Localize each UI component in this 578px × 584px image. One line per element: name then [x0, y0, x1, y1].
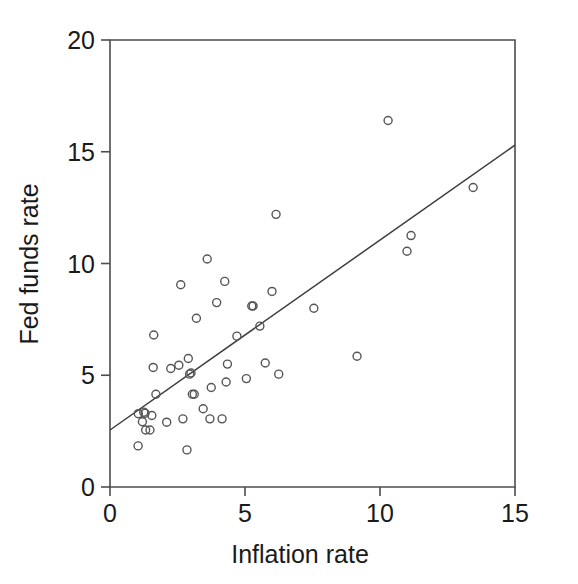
- scatter-point: [134, 442, 142, 450]
- y-tick-label-0: 0: [81, 473, 95, 501]
- scatter-point: [167, 365, 175, 373]
- scatter-point: [207, 384, 215, 392]
- scatter-point: [138, 418, 146, 426]
- scatter-point: [221, 277, 229, 285]
- plot-canvas: 20 15 10 5 0 0 5 10 15 Inflation rate Fe…: [0, 0, 578, 584]
- x-tick-label-15: 15: [501, 499, 529, 527]
- scatter-point: [403, 247, 411, 255]
- scatter-point: [242, 375, 250, 383]
- scatter-point: [192, 314, 200, 322]
- scatter-point: [353, 352, 361, 360]
- x-tick-labels: 0 5 10 15: [103, 499, 529, 527]
- y-tick-label-10: 10: [67, 250, 95, 278]
- scatter-point: [469, 184, 477, 192]
- scatter-point: [199, 405, 207, 413]
- scatter-point: [223, 360, 231, 368]
- scatter-point: [310, 304, 318, 312]
- scatter-marker-group: [134, 116, 477, 453]
- scatter-point: [384, 116, 392, 124]
- x-tick-label-5: 5: [238, 499, 252, 527]
- x-axis-ticks: [110, 487, 515, 496]
- y-tick-label-15: 15: [67, 138, 95, 166]
- scatter-point: [268, 287, 276, 295]
- regression-line: [110, 145, 515, 430]
- scatter-point: [275, 370, 283, 378]
- scatter-point: [407, 232, 415, 240]
- x-tick-label-0: 0: [103, 499, 117, 527]
- x-axis-title: Inflation rate: [231, 540, 369, 568]
- scatter-point: [184, 354, 192, 362]
- scatter-point: [272, 210, 280, 218]
- scatter-plot-figure: 20 15 10 5 0 0 5 10 15 Inflation rate Fe…: [0, 0, 578, 584]
- x-tick-label-10: 10: [366, 499, 394, 527]
- scatter-point: [218, 415, 226, 423]
- scatter-point: [203, 255, 211, 263]
- scatter-point: [222, 378, 230, 386]
- y-axis-title: Fed funds rate: [15, 183, 43, 344]
- regression-line-group: [110, 145, 515, 430]
- y-tick-label-20: 20: [67, 26, 95, 54]
- scatter-point: [206, 415, 214, 423]
- y-tick-labels: 20 15 10 5 0: [67, 26, 95, 501]
- scatter-point: [233, 332, 241, 340]
- scatter-point: [150, 331, 158, 339]
- scatter-point: [175, 361, 183, 369]
- scatter-point: [261, 359, 269, 367]
- y-axis-ticks: [101, 40, 110, 487]
- scatter-point: [177, 281, 185, 289]
- scatter-point: [149, 363, 157, 371]
- scatter-point: [183, 446, 191, 454]
- scatter-point: [163, 418, 171, 426]
- y-tick-label-5: 5: [81, 361, 95, 389]
- scatter-point: [213, 299, 221, 307]
- scatter-point: [179, 415, 187, 423]
